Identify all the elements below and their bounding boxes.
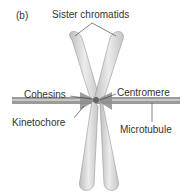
kinetochore-label: Kinetochore: [12, 117, 65, 128]
panel-label: (b): [16, 10, 28, 21]
centromere-label: Centromere: [117, 87, 170, 98]
chromosome-diagram: (b) Sister chromatids Cohesins Centromer…: [0, 0, 186, 194]
cohesins-label: Cohesins: [24, 89, 66, 100]
microtubule-label: Microtubule: [120, 124, 172, 135]
sister-chromatids-label: Sister chromatids: [52, 9, 129, 20]
